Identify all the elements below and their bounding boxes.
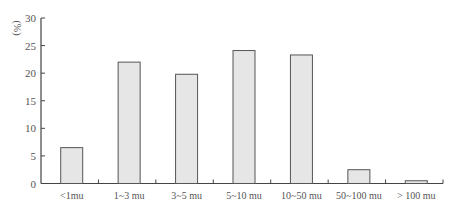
- chart-canvas: (%) 051015202530 <1mu1~3 mu3~5 mu5~10 mu…: [0, 0, 455, 209]
- y-tick-label: 0: [31, 178, 37, 190]
- bar: [233, 51, 255, 184]
- bar: [405, 181, 427, 184]
- bars: [61, 51, 428, 184]
- x-tick-label: 3~5 mu: [171, 190, 202, 201]
- y-tick-label: 20: [25, 67, 37, 79]
- x-tick-label: 50~100 mu: [336, 190, 382, 201]
- y-axis: 051015202530: [25, 12, 45, 190]
- bar: [176, 74, 198, 183]
- y-tick-label: 5: [31, 150, 37, 162]
- bar: [61, 148, 83, 184]
- x-tick-label: <1mu: [60, 190, 83, 201]
- x-tick-label: 1~3 mu: [114, 190, 145, 201]
- x-tick-label: 10~50 mu: [281, 190, 322, 201]
- y-tick-label: 10: [25, 122, 37, 134]
- bar: [290, 55, 312, 184]
- x-tick-label: 5~10 mu: [226, 190, 262, 201]
- y-tick-label: 25: [25, 40, 37, 52]
- x-tick-label: > 100 mu: [397, 190, 435, 201]
- y-axis-title: (%): [11, 21, 23, 36]
- bar: [348, 170, 370, 184]
- y-tick-label: 15: [25, 95, 37, 107]
- y-axis-label: (%): [11, 21, 23, 36]
- bar: [118, 62, 140, 183]
- bar-chart: (%) 051015202530 <1mu1~3 mu3~5 mu5~10 mu…: [0, 0, 455, 209]
- y-tick-label: 30: [25, 12, 37, 24]
